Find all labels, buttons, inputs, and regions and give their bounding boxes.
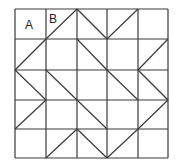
diagonal-line: [46, 70, 77, 100]
diagonal-line: [138, 70, 168, 100]
diagonal-line: [138, 39, 168, 70]
diagonal-line: [77, 39, 107, 70]
diagonal-lines: [15, 9, 168, 158]
diagonal-line: [46, 129, 77, 158]
diagonal-line: [15, 39, 46, 70]
diagonal-line: [107, 129, 138, 158]
diagonal-line: [107, 70, 138, 100]
diagonal-line: [107, 9, 138, 39]
diagonal-line: [15, 100, 46, 129]
diagonal-line: [77, 100, 107, 129]
diagonal-line: [77, 129, 107, 158]
grid-lines: [15, 9, 168, 158]
diagonal-line: [77, 9, 107, 39]
diagonal-line: [138, 100, 168, 129]
diagonal-line: [15, 70, 46, 100]
label-b: B: [49, 13, 57, 25]
label-a: A: [25, 19, 33, 31]
